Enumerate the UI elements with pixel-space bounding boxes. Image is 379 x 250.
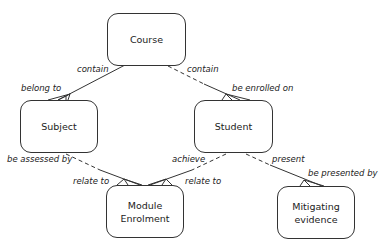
entity-student[interactable]: Student	[194, 100, 273, 153]
entity-student-label: Student	[215, 120, 252, 133]
entity-subject-label: Subject	[41, 120, 77, 133]
label-mitigating-be-presented-by: be presented by	[308, 168, 378, 178]
label-student-be-enrolled-on: be enrolled on	[232, 83, 293, 93]
label-subject-be-assessed-by: be assessed by	[7, 154, 72, 164]
label-student-present: present	[272, 154, 305, 164]
entity-subject[interactable]: Subject	[20, 100, 98, 153]
label-me-relate-to-student: relate to	[185, 176, 221, 186]
entity-module-enrolment[interactable]: Module Enrolment	[106, 185, 184, 238]
label-subject-belong-to: belong to	[21, 83, 61, 93]
label-me-relate-to-subject: relate to	[73, 176, 109, 186]
entity-module-enrolment-label: Module Enrolment	[121, 199, 170, 225]
entity-mitigating-evidence-label: Mitigating evidence	[290, 200, 342, 226]
label-student-achieve: achieve	[172, 154, 205, 164]
label-course-contain-student: contain	[187, 64, 219, 74]
entity-course-label: Course	[130, 33, 163, 46]
entity-mitigating-evidence[interactable]: Mitigating evidence	[277, 186, 355, 239]
label-course-contain-subject: contain	[77, 64, 109, 74]
entity-course[interactable]: Course	[107, 13, 186, 66]
